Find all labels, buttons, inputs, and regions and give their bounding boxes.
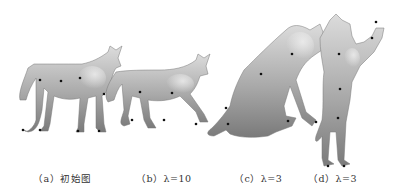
wolf-body [106,54,210,128]
constraint-point [163,119,166,122]
constraint-point [22,129,25,132]
constraint-point [343,165,346,168]
constraint-point [39,79,42,82]
constraint-point [339,88,342,91]
wolf-shine [166,74,194,94]
constraint-point [79,77,82,80]
constraint-point [39,129,42,132]
caption-c: （c）λ=3 [234,171,282,185]
wolf-shine [286,32,314,60]
constraint-point [227,123,230,126]
constraint-point [337,117,340,120]
wolf-body [20,46,122,132]
panel-c-wolf-sitting [208,24,326,137]
constraint-point [98,130,101,133]
constraint-point [338,53,341,56]
constraint-point [195,123,198,126]
constraint-point [371,37,374,40]
constraint-point [315,121,318,124]
panel-d-wolf-rearing [315,14,384,167]
wolf-shine [344,48,360,68]
caption-d: （d）λ=3 [308,171,357,185]
constraint-point [260,73,263,76]
constraint-point [60,80,63,83]
panel-b-wolf-running [106,54,210,128]
constraint-point [375,21,378,24]
caption-b: （b）λ=10 [136,171,192,185]
figure-canvas [0,0,405,194]
constraint-point [139,91,142,94]
wolf-body [315,14,384,166]
constraint-point [103,93,106,96]
constraint-point [171,92,174,95]
constraint-point [287,120,290,123]
constraint-point [225,107,228,110]
wolf-shine [78,66,106,90]
constraint-point [77,130,80,133]
constraint-point [131,119,134,122]
caption-a: （a）初始图 [33,171,92,185]
constraint-point [327,165,330,168]
constraint-point [291,53,294,56]
